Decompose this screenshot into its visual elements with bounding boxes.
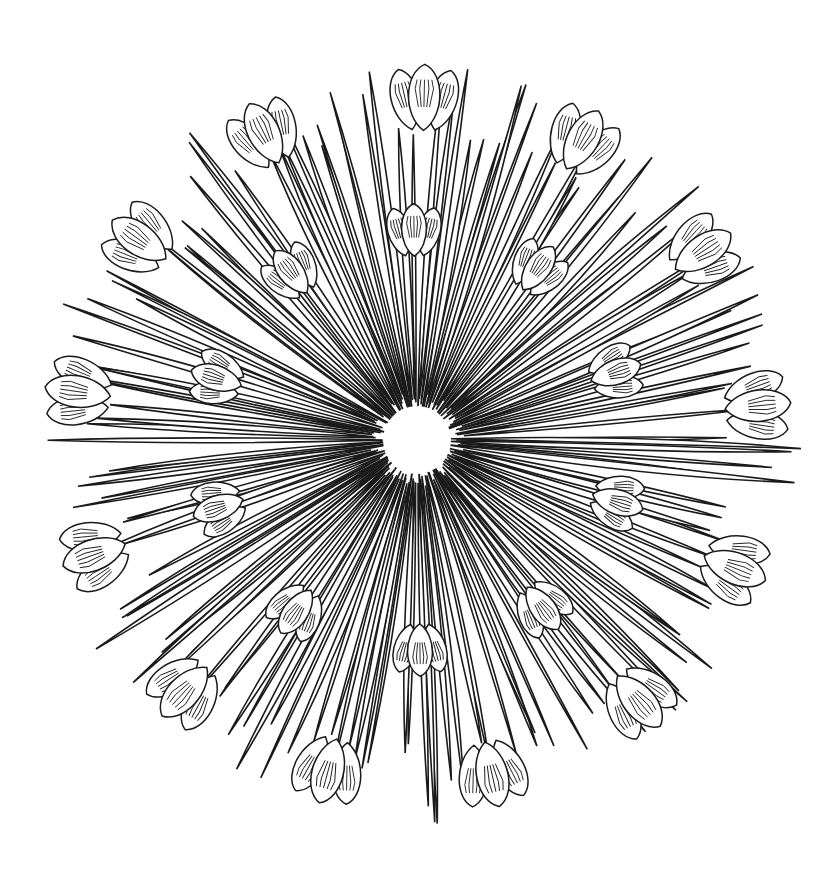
crocus-flower xyxy=(89,188,191,293)
crocus-mandala-illustration xyxy=(0,0,834,871)
crocus-flower xyxy=(384,64,465,134)
leaf-blade xyxy=(48,438,383,443)
petal-vein xyxy=(473,768,474,793)
crocus-flower xyxy=(133,638,238,742)
crocus-flower xyxy=(39,348,118,436)
crocus-flower xyxy=(530,92,633,191)
mandala-svg xyxy=(0,0,834,871)
petal-vein xyxy=(424,80,425,107)
crocus-flower xyxy=(214,86,316,183)
center-void xyxy=(383,406,451,474)
crocus-flower xyxy=(718,363,794,449)
crocus-flower xyxy=(388,621,452,676)
